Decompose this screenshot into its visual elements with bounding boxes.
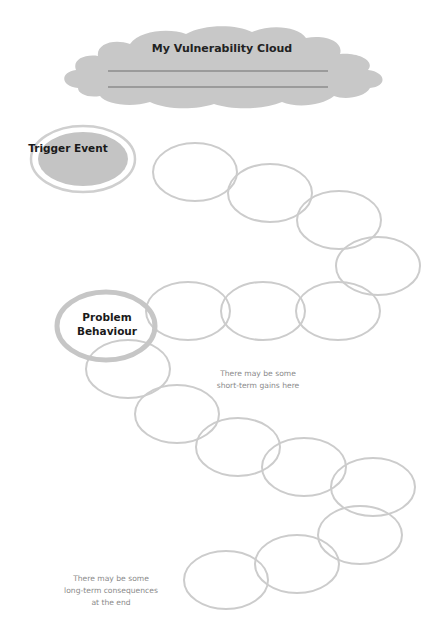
short-term-note: There may be some short-term gains here (217, 369, 300, 390)
trigger-event[interactable]: Trigger Event (28, 126, 135, 192)
problem-behaviour-label-2: Behaviour (77, 325, 138, 337)
chain-ring[interactable] (228, 164, 312, 222)
chain-ring[interactable] (297, 191, 381, 249)
chain-before (146, 143, 420, 340)
long-term-note-line-1: There may be some (72, 574, 149, 583)
vulnerability-cloud: My Vulnerability Cloud (64, 26, 382, 108)
chain-ring[interactable] (262, 438, 346, 496)
cloud-title: My Vulnerability Cloud (152, 42, 292, 55)
short-term-note-line-1: There may be some (219, 369, 296, 378)
long-term-note: There may be some long-term consequences… (64, 574, 158, 607)
long-term-note-line-3: at the end (91, 598, 130, 607)
chain-ring[interactable] (196, 418, 280, 476)
chain-ring[interactable] (336, 237, 420, 295)
chain-ring[interactable] (221, 282, 305, 340)
short-term-note-line-2: short-term gains here (217, 381, 300, 390)
cloud-shape (64, 26, 382, 108)
chain-ring[interactable] (135, 385, 219, 443)
problem-behaviour[interactable]: Problem Behaviour (57, 292, 155, 360)
vulnerability-diagram: My Vulnerability Cloud Trigger Event Pro… (0, 0, 443, 631)
chain-ring[interactable] (146, 282, 230, 340)
problem-behaviour-label-1: Problem (82, 311, 131, 323)
chain-ring[interactable] (296, 282, 380, 340)
trigger-event-fill (38, 132, 128, 186)
trigger-event-label: Trigger Event (28, 142, 107, 154)
chain-ring[interactable] (153, 143, 237, 201)
long-term-note-line-2: long-term consequences (64, 586, 158, 595)
chain-ring[interactable] (184, 551, 268, 609)
